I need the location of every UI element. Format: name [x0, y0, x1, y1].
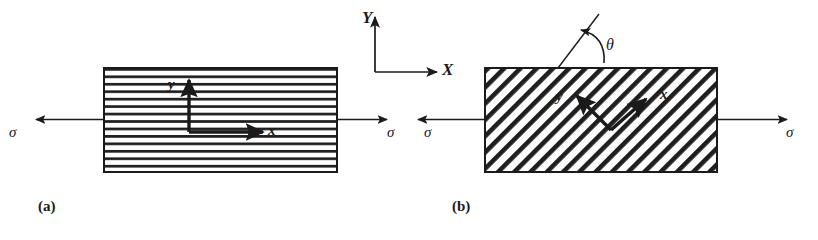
panel-a-lamina-hatch	[104, 68, 337, 172]
composite-lamina-figure	[0, 0, 818, 240]
panel-a-sigma-right-label: σ	[387, 124, 394, 141]
panel-b-local-x-label: x	[660, 86, 668, 103]
panel-a-local-y-label: y	[168, 76, 175, 93]
panel-a-caption: (a)	[38, 198, 56, 215]
panel-a-sigma-left-label: σ	[9, 124, 16, 141]
panel-b-theta-label: θ	[606, 36, 614, 54]
panel-b-sigma-right-label: σ	[786, 124, 793, 141]
panel-b-local-y-label: y	[556, 88, 563, 105]
panel-b-sigma-left-label: σ	[424, 124, 431, 141]
global-x-axis-label: X	[442, 60, 453, 80]
panel-b-caption: (b)	[452, 198, 470, 215]
global-y-axis-label: Y	[362, 8, 372, 28]
panel-a-local-x-label: x	[268, 122, 276, 139]
